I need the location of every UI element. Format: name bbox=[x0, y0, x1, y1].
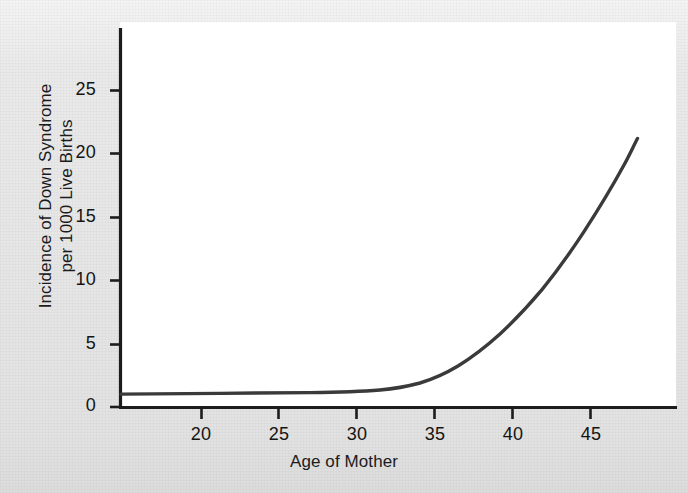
chart-plot-area bbox=[0, 0, 688, 493]
x-tick-label-20: 20 bbox=[181, 424, 221, 445]
y-tick-label-0: 0 bbox=[56, 395, 96, 416]
x-tick-label-30: 30 bbox=[337, 424, 377, 445]
x-tick-label-40: 40 bbox=[493, 424, 533, 445]
data-series-line bbox=[121, 139, 638, 395]
y-axis-title-line-1: Incidence of Down Syndrome bbox=[36, 84, 57, 309]
figure-page: 25 20 15 10 5 0 20 25 30 35 40 45 Incide… bbox=[0, 0, 688, 493]
x-tick-label-45: 45 bbox=[571, 424, 611, 445]
y-axis-title-line-2: per 1000 Live Births bbox=[57, 119, 78, 272]
x-tick-label-25: 25 bbox=[259, 424, 299, 445]
x-axis-title: Age of Mother bbox=[0, 452, 688, 472]
y-axis-title: Incidence of Down Syndrome per 1000 Live… bbox=[27, 1, 87, 391]
x-tick-label-35: 35 bbox=[415, 424, 455, 445]
